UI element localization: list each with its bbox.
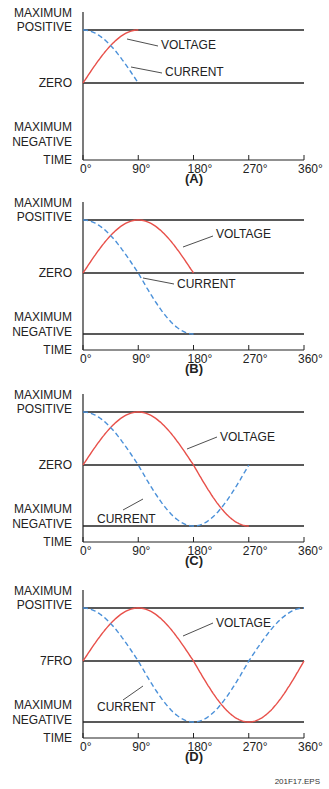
svg-text:CURRENT: CURRENT <box>97 700 156 714</box>
svg-text:MAXIMUM: MAXIMUM <box>14 196 72 210</box>
svg-text:MAXIMUM: MAXIMUM <box>14 6 72 20</box>
svg-text:TIME: TIME <box>43 535 72 549</box>
x-tick-label: 90° <box>132 544 150 558</box>
svg-text:POSITIVE: POSITIVE <box>17 402 72 416</box>
svg-text:NEGATIVE: NEGATIVE <box>12 325 72 339</box>
x-tick-label: 360° <box>298 352 323 366</box>
svg-text:ZERO: ZERO <box>39 266 72 280</box>
x-tick-label: 270° <box>243 162 268 176</box>
svg-text:NEGATIVE: NEGATIVE <box>12 517 72 531</box>
x-tick-label: 0° <box>80 162 92 176</box>
x-tick-label: 360° <box>298 740 323 754</box>
svg-text:ZERO: ZERO <box>39 76 72 90</box>
panel-caption: (B) <box>185 361 203 376</box>
svg-text:VOLTAGE: VOLTAGE <box>220 430 275 444</box>
x-tick-label: 270° <box>243 352 268 366</box>
svg-text:TIME: TIME <box>43 731 72 745</box>
svg-text:VOLTAGE: VOLTAGE <box>161 38 216 52</box>
svg-text:NEGATIVE: NEGATIVE <box>12 135 72 149</box>
x-tick-label: 90° <box>132 352 150 366</box>
x-tick-label: 0° <box>80 740 92 754</box>
panel-caption: (D) <box>185 749 203 764</box>
voltage-curve <box>83 30 138 83</box>
svg-text:TIME: TIME <box>43 343 72 357</box>
x-tick-label: 360° <box>298 162 323 176</box>
x-tick-label: 90° <box>132 740 150 754</box>
svg-text:MAXIMUM: MAXIMUM <box>14 388 72 402</box>
x-tick-label: 0° <box>80 352 92 366</box>
svg-text:ZERO: ZERO <box>39 458 72 472</box>
svg-text:VOLTAGE: VOLTAGE <box>216 227 271 241</box>
x-tick-label: 270° <box>243 740 268 754</box>
svg-text:NEGATIVE: NEGATIVE <box>12 713 72 727</box>
svg-text:MAXIMUM: MAXIMUM <box>14 120 72 134</box>
svg-text:MAXIMUM: MAXIMUM <box>14 502 72 516</box>
svg-text:MAXIMUM: MAXIMUM <box>14 698 72 712</box>
svg-text:CURRENT: CURRENT <box>177 277 236 291</box>
svg-text:TIME: TIME <box>43 153 72 167</box>
x-tick-label: 0° <box>80 544 92 558</box>
phase-diagram: 0°90°180°270°360°MAXIMUMPOSITIVEZEROMAXI… <box>0 0 329 789</box>
svg-text:MAXIMUM: MAXIMUM <box>14 584 72 598</box>
svg-text:7FRO: 7FRO <box>40 654 72 668</box>
current-curve <box>83 30 138 83</box>
panel-caption: (A) <box>185 171 203 186</box>
figure-id: 201F17.EPS <box>275 777 320 786</box>
x-tick-label: 90° <box>132 162 150 176</box>
svg-text:CURRENT: CURRENT <box>165 65 224 79</box>
svg-text:CURRENT: CURRENT <box>97 512 156 526</box>
svg-text:MAXIMUM: MAXIMUM <box>14 310 72 324</box>
svg-text:VOLTAGE: VOLTAGE <box>216 616 271 630</box>
x-tick-label: 360° <box>298 544 323 558</box>
svg-text:POSITIVE: POSITIVE <box>17 20 72 34</box>
svg-text:POSITIVE: POSITIVE <box>17 598 72 612</box>
x-tick-label: 270° <box>243 544 268 558</box>
voltage-curve <box>83 220 194 273</box>
panel-caption: (C) <box>185 553 203 568</box>
svg-text:POSITIVE: POSITIVE <box>17 210 72 224</box>
